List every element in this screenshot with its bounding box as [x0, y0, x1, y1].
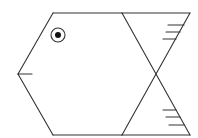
upper-tail-fin-lines — [163, 25, 184, 39]
head-upper-slant — [18, 13, 53, 74]
fish-diagram — [0, 0, 198, 138]
head-lower-slant — [18, 74, 53, 135]
eye-icon — [51, 28, 65, 42]
fish-outline — [18, 13, 122, 135]
eye-pupil — [55, 32, 61, 38]
